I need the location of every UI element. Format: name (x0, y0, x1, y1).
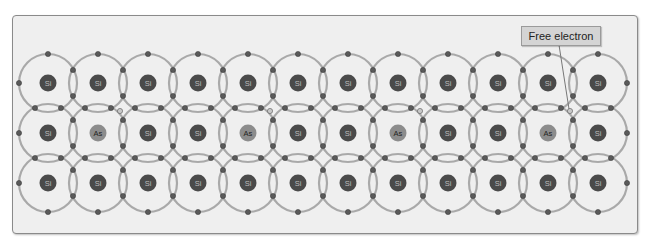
electron (320, 67, 325, 72)
electron (358, 155, 363, 160)
electron (270, 117, 275, 122)
free-electron (417, 108, 422, 113)
electron (570, 193, 575, 198)
electron (220, 193, 225, 198)
electron (595, 209, 600, 214)
electron (370, 67, 375, 72)
electron (358, 105, 363, 110)
electron (470, 117, 475, 122)
electron (170, 143, 175, 148)
atom-symbol: Si (95, 79, 102, 88)
electron (470, 67, 475, 72)
electron (382, 155, 387, 160)
atom-symbol: Si (345, 79, 352, 88)
electron (270, 93, 275, 98)
electron (158, 105, 163, 110)
electron (532, 155, 537, 160)
electron (570, 143, 575, 148)
atom-symbol: As (544, 129, 553, 138)
electron (595, 51, 600, 56)
electron (308, 105, 313, 110)
atom-symbol: Si (495, 179, 502, 188)
electron (258, 155, 263, 160)
electron (320, 167, 325, 172)
electron (70, 93, 75, 98)
electron (520, 67, 525, 72)
electron (558, 105, 563, 110)
electron (208, 105, 213, 110)
electron (82, 105, 87, 110)
electron (420, 167, 425, 172)
electron (370, 167, 375, 172)
free-electron (117, 108, 122, 113)
electron (395, 51, 400, 56)
electron (345, 51, 350, 56)
atom-symbol: Si (95, 179, 102, 188)
electron (495, 51, 500, 56)
electron (308, 155, 313, 160)
electron (232, 105, 237, 110)
electron (45, 209, 50, 214)
atom-symbol: Si (295, 79, 302, 88)
electron (220, 93, 225, 98)
atom-symbol: Si (195, 129, 202, 138)
electron (520, 167, 525, 172)
atom-symbol: Si (45, 79, 52, 88)
electron (482, 105, 487, 110)
atom-symbol: Si (45, 179, 52, 188)
atom-symbol: Si (395, 179, 402, 188)
electron (470, 193, 475, 198)
electron (320, 143, 325, 148)
electron (570, 67, 575, 72)
electron (220, 143, 225, 148)
electron (570, 117, 575, 122)
electron (608, 155, 613, 160)
electron (558, 155, 563, 160)
electron (145, 51, 150, 56)
electron (482, 155, 487, 160)
electron (120, 193, 125, 198)
atom-symbol: As (94, 129, 103, 138)
electron (320, 93, 325, 98)
free-electron-label: Free electron (521, 26, 601, 46)
electron (58, 105, 63, 110)
atom-symbol: Si (195, 79, 202, 88)
electron (70, 67, 75, 72)
electron (270, 143, 275, 148)
electron (270, 167, 275, 172)
atom-symbol: Si (445, 129, 452, 138)
electron (270, 193, 275, 198)
atom-symbol: Si (595, 179, 602, 188)
atom-symbol: As (394, 129, 403, 138)
electron (432, 105, 437, 110)
electron (508, 105, 513, 110)
electron (220, 67, 225, 72)
electron (345, 209, 350, 214)
electron (445, 209, 450, 214)
atom-symbol: Si (545, 79, 552, 88)
atom-symbol: Si (595, 129, 602, 138)
electron (70, 167, 75, 172)
electron (120, 67, 125, 72)
electron (445, 51, 450, 56)
electron (420, 193, 425, 198)
electron (170, 93, 175, 98)
electron (182, 105, 187, 110)
electron (520, 117, 525, 122)
electron (82, 155, 87, 160)
electron (16, 130, 21, 135)
electron (70, 117, 75, 122)
atom-symbol: Si (595, 79, 602, 88)
electron (420, 67, 425, 72)
electron (16, 180, 21, 185)
electron (382, 105, 387, 110)
atom-symbol: Si (445, 179, 452, 188)
electron (170, 193, 175, 198)
atom-symbol: As (244, 129, 253, 138)
free-electron (267, 108, 272, 113)
electron (432, 155, 437, 160)
electron (120, 143, 125, 148)
electron (232, 155, 237, 160)
electron (220, 117, 225, 122)
atom-symbol: Si (145, 179, 152, 188)
